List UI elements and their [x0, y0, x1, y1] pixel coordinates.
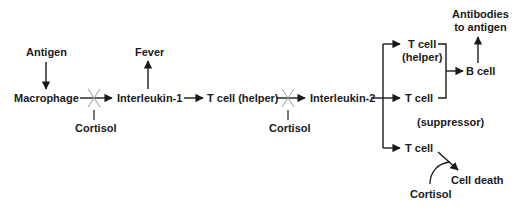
node-tcell-suppressor: T cell — [405, 92, 433, 104]
node-interleukin-2: Interleukin-2 — [310, 92, 375, 104]
node-tcell-helper-1: T cell (helper) — [207, 92, 279, 104]
node-antigen: Antigen — [26, 46, 67, 58]
node-cortisol-3: Cortisol — [410, 188, 452, 200]
node-fever: Fever — [135, 46, 164, 58]
cortisol-3-curve — [430, 162, 450, 184]
diagram-connectors — [0, 0, 520, 210]
arrow-tcell-to-cell-death — [438, 152, 458, 170]
node-tcell-helper-2: T cell (helper) — [402, 38, 442, 63]
node-antibodies: Antibodies to antigen — [452, 8, 509, 33]
node-macrophage: Macrophage — [14, 92, 79, 104]
node-cell-death: Cell death — [451, 174, 504, 186]
node-cortisol-1: Cortisol — [75, 122, 117, 134]
node-interleukin-1: Interleukin-1 — [117, 92, 182, 104]
antibodies-line2: to antigen — [452, 21, 509, 33]
node-cortisol-2: Cortisol — [269, 122, 311, 134]
cortisol-immune-pathway-diagram: Antigen Macrophage Cortisol Fever Interl… — [0, 0, 520, 210]
antibodies-line1: Antibodies — [452, 8, 509, 20]
node-suppressor-label: (suppressor) — [417, 116, 484, 128]
node-tcell-3: T cell — [405, 142, 433, 154]
tcell-helper-2-line1: T cell — [402, 38, 442, 50]
node-bcell: B cell — [466, 65, 495, 77]
tcell-helper-2-line2: (helper) — [402, 51, 442, 63]
